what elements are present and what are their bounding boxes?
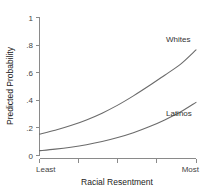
y-tick-label-02: .2 — [26, 124, 33, 133]
y-axis-title: Predicted Probability — [5, 46, 15, 125]
y-tick-label-08: .8 — [26, 41, 33, 50]
y-tick-label-1: 1 — [29, 14, 34, 23]
series-label-latinos: Latinos — [166, 109, 192, 118]
series-label-whites: Whites — [166, 35, 190, 44]
y-tick-label-04: .4 — [26, 96, 33, 105]
x-tick-label-least: Least — [36, 165, 56, 174]
y-axis-ticks — [36, 18, 40, 156]
chart-plot-area: 1 .8 .6 .4 .2 0 Least Most Whites Latino… — [0, 0, 206, 190]
x-axis-title: Racial Resentment — [81, 177, 153, 187]
chart-figure: 1 .8 .6 .4 .2 0 Least Most Whites Latino… — [0, 0, 206, 190]
y-tick-label-0: 0 — [29, 152, 34, 161]
y-tick-label-06: .6 — [26, 69, 33, 78]
x-axis-ticks — [40, 159, 197, 164]
x-tick-label-most: Most — [182, 165, 200, 174]
series-line-whites — [40, 50, 197, 134]
